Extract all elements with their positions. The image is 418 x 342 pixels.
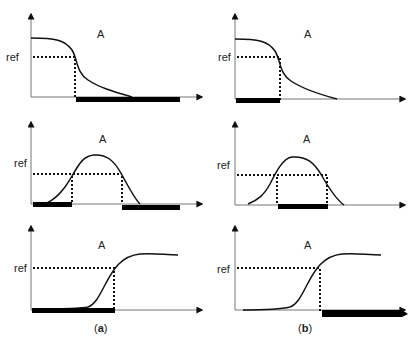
curve — [44, 155, 140, 204]
highlight-bar — [76, 97, 180, 102]
highlight-bar-right — [122, 205, 180, 210]
panel-label: A — [303, 133, 311, 145]
ref-label: ref — [14, 262, 28, 274]
panel-b2: ref A — [217, 122, 405, 209]
caption-a: (a) — [94, 322, 107, 334]
curve — [248, 157, 344, 205]
panel-label: A — [99, 133, 107, 145]
panel-a1: ref A — [6, 14, 202, 102]
curve — [243, 254, 381, 310]
panel-b3: ref A — [217, 226, 408, 317]
ref-dotted-line — [237, 57, 280, 100]
curve — [33, 254, 178, 309]
ref-label: ref — [217, 159, 231, 171]
panel-a2: ref A — [14, 122, 202, 210]
caption-b: (b) — [298, 322, 312, 334]
panel-label: A — [304, 239, 312, 251]
ref-label: ref — [217, 263, 231, 275]
ref-dotted-line — [33, 57, 75, 98]
panel-label: A — [98, 239, 106, 251]
panel-label: A — [97, 28, 105, 40]
panel-b1: ref A — [218, 14, 405, 103]
curve — [31, 38, 132, 97]
highlight-bar — [32, 308, 115, 313]
highlight-bar — [278, 204, 328, 209]
diagram-canvas: ref A ref A ref A ref A — [0, 0, 418, 342]
panel-label: A — [304, 28, 312, 40]
curve — [235, 39, 337, 99]
highlight-bar — [236, 98, 280, 103]
highlight-bar-arrow — [322, 310, 408, 317]
ref-dotted-line — [237, 268, 320, 311]
highlight-bar-left — [33, 202, 72, 207]
panel-a3: ref A — [14, 226, 202, 313]
ref-label: ref — [6, 51, 20, 63]
ref-label: ref — [218, 51, 232, 63]
ref-label: ref — [14, 157, 28, 169]
